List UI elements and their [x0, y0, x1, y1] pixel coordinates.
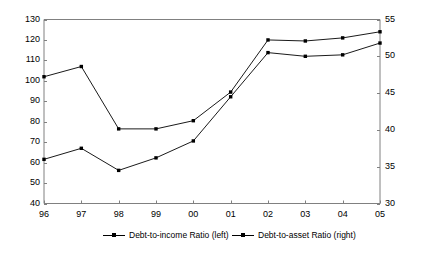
x-axis-tick-label: 01: [217, 210, 245, 219]
x-axis-tick-label: 97: [67, 210, 95, 219]
data-point-marker: [266, 51, 269, 54]
data-point-marker: [192, 119, 195, 122]
data-point-marker: [154, 127, 157, 130]
x-axis-tick-label: 04: [329, 210, 357, 219]
x-axis-tick-label: 05: [366, 210, 394, 219]
data-point-marker: [341, 36, 344, 39]
data-point-marker: [229, 95, 232, 98]
y-axis-left-tick-label: 50: [8, 178, 40, 187]
x-axis-tick-label: 98: [105, 210, 133, 219]
data-point-marker: [378, 41, 381, 44]
y-axis-left-tick-label: 110: [8, 55, 40, 64]
y-axis-left-tick-label: 70: [8, 137, 40, 146]
legend-label: Debt-to-income Ratio (left): [129, 230, 229, 240]
y-axis-right-tick-label: 40: [385, 125, 415, 134]
data-point-marker: [117, 127, 120, 130]
data-point-marker: [378, 30, 381, 33]
legend-label: Debt-to-asset Ratio (right): [258, 230, 356, 240]
legend-marker-icon: [232, 231, 254, 239]
x-axis-tick-label: 00: [179, 210, 207, 219]
y-axis-right-tick-label: 50: [385, 51, 415, 60]
x-axis-tick-label: 03: [291, 210, 319, 219]
data-point-marker: [117, 169, 120, 172]
y-axis-left-tick-label: 90: [8, 96, 40, 105]
data-point-marker: [192, 139, 195, 142]
legend-item-debt-to-income: Debt-to-income Ratio (left): [103, 230, 229, 240]
y-axis-left-tick-label: 130: [8, 15, 40, 24]
y-axis-left-tick-label: 100: [8, 76, 40, 85]
data-point-marker: [304, 39, 307, 42]
data-point-marker: [80, 147, 83, 150]
x-axis-tick-label: 02: [254, 210, 282, 219]
legend-item-debt-to-asset: Debt-to-asset Ratio (right): [232, 230, 356, 240]
plot-area: [0, 0, 424, 255]
data-point-marker: [341, 53, 344, 56]
y-axis-right-tick-label: 30: [385, 199, 415, 208]
y-axis-left-tick-label: 80: [8, 117, 40, 126]
data-point-marker: [304, 55, 307, 58]
y-axis-left-tick-label: 60: [8, 158, 40, 167]
plot-frame: [44, 20, 380, 204]
data-point-marker: [266, 38, 269, 41]
y-axis-right-tick-label: 45: [385, 88, 415, 97]
x-axis-tick-label: 96: [30, 210, 58, 219]
y-axis-left-tick-label: 120: [8, 35, 40, 44]
data-point-marker: [42, 158, 45, 161]
data-point-marker: [154, 156, 157, 159]
legend-marker-icon: [103, 231, 125, 239]
data-point-marker: [80, 65, 83, 68]
y-axis-right-tick-label: 55: [385, 15, 415, 24]
y-axis-left-tick-label: 40: [8, 199, 40, 208]
series-line-debt-to-income: [44, 32, 380, 129]
chart-container: 405060708090100110120130 303540455055 96…: [0, 0, 424, 255]
x-axis-tick-label: 99: [142, 210, 170, 219]
data-point-marker: [229, 90, 232, 93]
y-axis-right-tick-label: 35: [385, 162, 415, 171]
data-point-marker: [42, 75, 45, 78]
